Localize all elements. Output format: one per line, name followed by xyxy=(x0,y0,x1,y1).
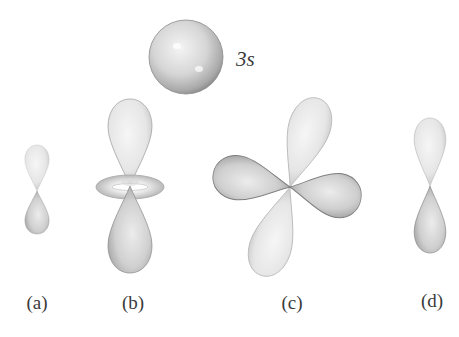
caption-c: (c) xyxy=(281,292,302,314)
orbital-d xyxy=(414,118,446,253)
caption-a: (a) xyxy=(26,292,47,314)
caption-d: (d) xyxy=(421,290,443,312)
orbital-c xyxy=(209,92,364,282)
orbital-figure: 3s (a) (b) (c) (d) xyxy=(0,0,459,337)
orbital-a xyxy=(25,145,49,234)
orbital-3s: 3s xyxy=(149,20,255,94)
caption-b: (b) xyxy=(122,292,144,314)
orbital-3s-label: 3s xyxy=(235,47,255,71)
orbital-b xyxy=(96,99,164,273)
